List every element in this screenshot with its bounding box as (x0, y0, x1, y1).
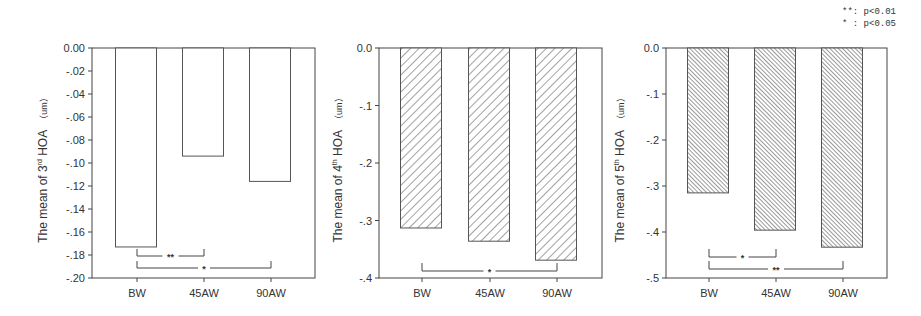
significance-legend: **: p<0.01 * : p<0.05 (842, 6, 896, 30)
y-tick-label: -.18 (66, 249, 85, 261)
y-tick-label: -.06 (66, 111, 85, 123)
chart-5th-hoa: 0.0-.1-.2-.3-.4-.5The mean of 5th HOA（um… (613, 42, 887, 299)
significance-bracket: * (709, 249, 776, 263)
significance-label: * (202, 264, 206, 274)
y-tick-label: -.1 (359, 100, 372, 112)
significance-bracket: ** (709, 261, 843, 275)
y-tick-label: -.4 (359, 272, 372, 284)
x-tick-label: 90AW (256, 287, 286, 299)
bar-45aw (183, 48, 224, 156)
y-tick-label: -.2 (646, 134, 659, 146)
bar-90aw (822, 48, 863, 247)
legend-item-p005: * : p<0.05 (842, 18, 896, 30)
y-axis-label: The mean of 4th HOA（um） (331, 93, 345, 242)
bar-bw (688, 48, 729, 193)
bar-90aw (536, 48, 577, 260)
y-axis-label: The mean of 5th HOA（um） (613, 93, 627, 242)
legend-item-p001: **: p<0.01 (842, 6, 896, 18)
x-tick-label: BW (128, 287, 146, 299)
x-tick-label: BW (700, 287, 718, 299)
chart-4th-hoa: 0.0-.1-.2-.3-.4The mean of 4th HOA（um）BW… (331, 42, 602, 299)
y-tick-label: -.2 (359, 157, 372, 169)
y-tick-label: -.20 (66, 272, 85, 284)
x-tick-label: 45AW (189, 287, 219, 299)
y-tick-label: -.12 (66, 180, 85, 192)
y-axis-label: The mean of 3rd HOA（um） (36, 93, 50, 242)
y-tick-label: -.04 (66, 88, 85, 100)
significance-label: * (741, 253, 745, 263)
y-tick-label: -.08 (66, 134, 85, 146)
y-tick-label: -.10 (66, 157, 85, 169)
x-tick-label: BW (413, 287, 431, 299)
charts-canvas: 0.00-.02-.04-.06-.08-.10-.12-.14-.16-.18… (0, 0, 921, 316)
y-tick-label: -.3 (359, 215, 372, 227)
significance-label: ** (167, 252, 175, 262)
x-tick-label: 45AW (761, 287, 791, 299)
y-tick-label: -.14 (66, 203, 85, 215)
significance-bracket: * (422, 263, 557, 277)
figure: 0.00-.02-.04-.06-.08-.10-.12-.14-.16-.18… (0, 0, 921, 316)
y-tick-label: -.1 (646, 88, 659, 100)
significance-label: ** (772, 265, 780, 275)
x-tick-label: 90AW (542, 287, 572, 299)
y-tick-label: -.02 (66, 65, 85, 77)
significance-bracket: * (137, 261, 271, 274)
bar-45aw (755, 48, 796, 230)
y-tick-label: 0.00 (64, 42, 85, 54)
y-tick-label: -.5 (646, 272, 659, 284)
y-tick-label: 0.0 (357, 42, 372, 54)
y-tick-label: 0.0 (644, 42, 659, 54)
x-tick-label: 45AW (475, 287, 505, 299)
significance-label: * (488, 267, 492, 277)
significance-bracket: ** (137, 249, 204, 262)
chart-3rd-hoa: 0.00-.02-.04-.06-.08-.10-.12-.14-.16-.18… (36, 42, 315, 299)
bar-bw (401, 48, 442, 228)
x-tick-label: 90AW (828, 287, 858, 299)
bar-90aw (250, 48, 291, 181)
bar-bw (116, 48, 157, 247)
y-tick-label: -.3 (646, 180, 659, 192)
bar-45aw (469, 48, 510, 241)
y-tick-label: -.4 (646, 226, 659, 238)
y-tick-label: -.16 (66, 226, 85, 238)
